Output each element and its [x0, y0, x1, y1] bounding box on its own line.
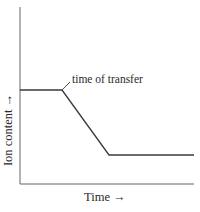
annotation-leader-line: [62, 82, 70, 90]
ion-content-line: [20, 90, 194, 155]
ion-content-chart: time of transfer Time → Ion content →: [0, 0, 200, 212]
y-axis-label: Ion content →: [1, 94, 16, 166]
x-axis-label: Time →: [84, 190, 126, 205]
time-of-transfer-annotation: time of transfer: [72, 73, 143, 85]
chart-canvas: [0, 0, 200, 212]
